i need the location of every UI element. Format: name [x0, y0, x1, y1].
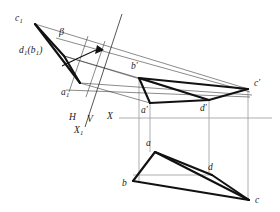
front-view-figure: [139, 78, 248, 103]
label-c-prime: c′: [254, 79, 261, 89]
label-x: X: [107, 112, 113, 122]
label-a: a: [146, 139, 151, 149]
beta-arc: [62, 50, 96, 66]
label-d: d: [208, 163, 213, 173]
projector-upper: [56, 38, 250, 92]
label-v: V: [87, 115, 93, 125]
label-beta: β: [59, 27, 64, 37]
label-a-prime: a′: [141, 106, 148, 116]
label-d-prime: d′: [200, 104, 207, 114]
label-c: c: [255, 196, 259, 206]
top-edge-a-b: [133, 152, 155, 181]
label-d1-b1: d1(b1): [19, 46, 43, 56]
beta-arrowhead: [95, 45, 104, 54]
descriptive-geometry-figure: c1 β d1(b1) a1 b′ c′ a′ d′ a b d c H V X…: [0, 0, 280, 212]
label-b-prime: b′: [131, 62, 138, 72]
label-x1: X1: [74, 126, 84, 136]
x1-fold-line: [85, 14, 122, 127]
projector-lower-band: [80, 83, 252, 95]
label-c1: c1: [15, 14, 23, 24]
label-h: H: [69, 113, 76, 123]
label-a1: a1: [61, 88, 69, 98]
top-view-figure: [133, 152, 249, 200]
figure-canvas: [0, 0, 280, 212]
label-b: b: [122, 179, 127, 189]
